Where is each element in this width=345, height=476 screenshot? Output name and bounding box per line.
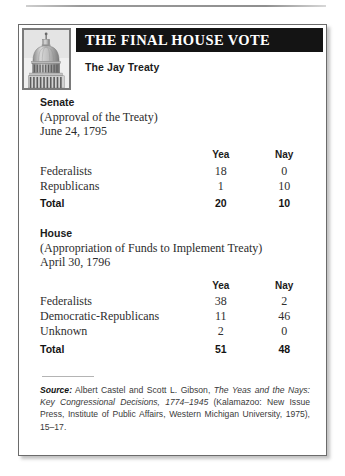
table-row: Federalists 18 0 <box>40 163 316 178</box>
row-nay: 10 <box>253 178 316 193</box>
row-nay: 46 <box>253 309 316 324</box>
house-chamber-name: House <box>40 226 316 241</box>
row-nay: 2 <box>253 294 316 309</box>
table-header-row: Yea Nay <box>40 149 316 163</box>
source-divider <box>42 376 94 377</box>
senate-vote-table: Yea Nay Federalists 18 0 Republicans 1 1… <box>40 149 316 211</box>
page-top-rule <box>26 5 326 7</box>
senate-section: Senate (Approval of the Treaty) June 24,… <box>40 95 316 211</box>
row-nay: 0 <box>253 163 316 178</box>
row-yea: 18 <box>189 163 252 178</box>
row-yea: 1 <box>189 178 252 193</box>
table-row: Federalists 38 2 <box>40 294 316 309</box>
senate-description: (Approval of the Treaty) <box>40 110 316 124</box>
figure-body: Senate (Approval of the Treaty) June 24,… <box>19 95 326 455</box>
total-yea: 51 <box>189 339 252 357</box>
senate-date: June 24, 1795 <box>40 124 316 138</box>
figure-title-bar: THE FINAL HOUSE VOTE <box>76 28 323 52</box>
column-header-nay: Nay <box>253 149 316 163</box>
table-row: Republicans 1 10 <box>40 178 316 193</box>
row-nay: 0 <box>253 324 316 339</box>
table-row: Unknown 2 0 <box>40 324 316 339</box>
row-label: Federalists <box>40 163 189 178</box>
capitol-dome-icon <box>22 28 71 90</box>
column-header-nay: Nay <box>253 280 316 294</box>
total-nay: 48 <box>253 339 316 357</box>
page-title: THE FINAL HOUSE VOTE <box>76 32 270 49</box>
column-header-yea: Yea <box>189 280 252 294</box>
row-label: Democratic-Republicans <box>40 309 189 324</box>
row-yea: 11 <box>189 309 252 324</box>
figure-header: THE FINAL HOUSE VOTE The Jay Treaty <box>19 25 326 81</box>
total-label: Total <box>40 339 189 357</box>
source-citation: Source: Albert Castel and Scott L. Gibso… <box>40 384 316 433</box>
column-header-label <box>40 280 189 294</box>
total-yea: 20 <box>189 193 252 211</box>
row-yea: 2 <box>189 324 252 339</box>
house-total-row: Total 51 48 <box>40 339 316 357</box>
table-row: Democratic-Republicans 11 46 <box>40 309 316 324</box>
source-authors: Albert Castel and Scott L. Gibson, <box>72 385 214 395</box>
total-nay: 10 <box>253 193 316 211</box>
table-header-row: Yea Nay <box>40 280 316 294</box>
column-header-yea: Yea <box>189 149 252 163</box>
figure-subtitle: The Jay Treaty <box>85 61 159 73</box>
row-label: Federalists <box>40 294 189 309</box>
vote-figure-frame: THE FINAL HOUSE VOTE The Jay Treaty Sena… <box>18 24 327 456</box>
senate-total-row: Total 20 10 <box>40 193 316 211</box>
source-label: Source: <box>40 385 72 395</box>
house-description: (Appropriation of Funds to Implement Tre… <box>40 241 316 255</box>
row-label: Republicans <box>40 178 189 193</box>
row-yea: 38 <box>189 294 252 309</box>
total-label: Total <box>40 193 189 211</box>
house-section: House (Appropriation of Funds to Impleme… <box>40 226 316 357</box>
senate-chamber-name: Senate <box>40 95 316 110</box>
house-vote-table: Yea Nay Federalists 38 2 Democratic-Repu… <box>40 280 316 357</box>
house-date: April 30, 1796 <box>40 255 316 269</box>
column-header-label <box>40 149 189 163</box>
row-label: Unknown <box>40 324 189 339</box>
